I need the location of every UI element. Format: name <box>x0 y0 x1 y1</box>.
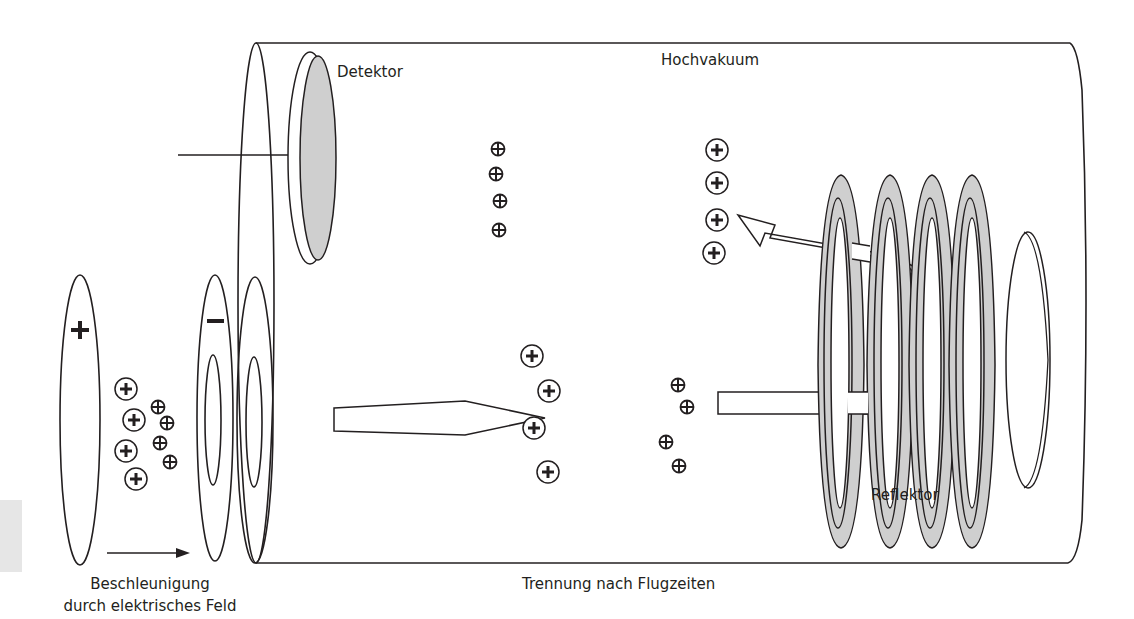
source-ions <box>115 378 177 490</box>
reflector-ring-1 <box>818 175 864 548</box>
incoming-ion-beam <box>334 401 545 435</box>
upper-ions-large <box>703 139 728 264</box>
vacuum-label: Hochvakuum <box>661 51 759 69</box>
lower-ions-small <box>660 379 694 473</box>
tof-mass-spectrometer-diagram <box>0 0 1134 619</box>
positive-plate <box>60 275 100 565</box>
reflector-label: Reflektor <box>871 486 939 504</box>
negative-plate <box>197 275 233 561</box>
detector <box>178 52 336 264</box>
separation-label: Trennung nach Flugzeiten <box>522 575 715 593</box>
acceleration-arrow <box>107 548 190 558</box>
acceleration-label-line1: Beschleunigung <box>70 575 230 593</box>
reflector-back-plate <box>1006 232 1050 488</box>
acceleration-label-line2: durch elektrisches Feld <box>60 597 240 615</box>
upper-ions-small <box>490 143 507 237</box>
detector-label: Detektor <box>337 63 403 81</box>
reflector-ring-4 <box>949 175 995 548</box>
entrance-aperture-plate <box>237 277 273 563</box>
